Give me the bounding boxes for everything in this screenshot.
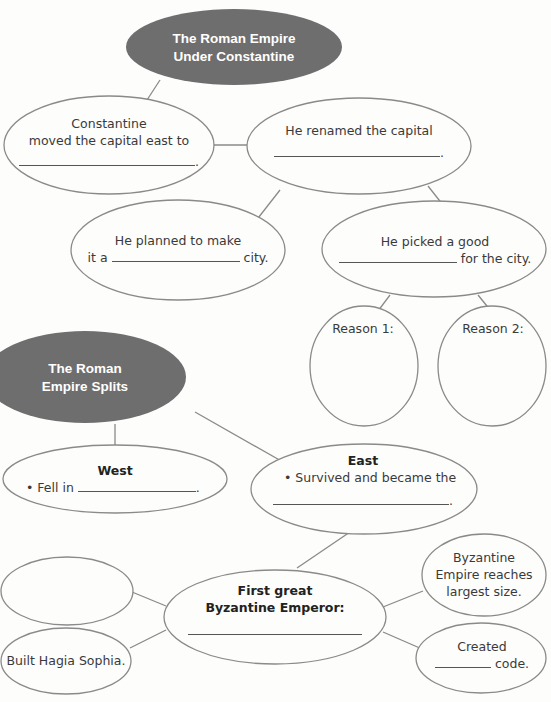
node-heading: West bbox=[20, 462, 210, 479]
node-capital-moved: Constantine moved the capital east to . bbox=[14, 115, 204, 170]
title-line: Under Constantine bbox=[134, 48, 334, 66]
title-line: The Roman bbox=[0, 360, 170, 378]
reason2-answer-area[interactable] bbox=[450, 342, 534, 412]
node-text: Created bbox=[424, 638, 540, 655]
answer-blank[interactable] bbox=[188, 622, 362, 635]
title-line: Empire Splits bbox=[0, 378, 170, 396]
bullet: • bbox=[284, 470, 291, 485]
period: . bbox=[195, 154, 199, 169]
connector bbox=[130, 630, 166, 648]
node-text: Survived and became the bbox=[295, 470, 456, 485]
node-text: for the city. bbox=[461, 251, 531, 266]
connector bbox=[132, 592, 166, 606]
node-heading: Byzantine Emperor: bbox=[175, 599, 375, 616]
node-hagia: Built Hagia Sophia. bbox=[2, 652, 130, 669]
node-east: East • Survived and became the . bbox=[268, 452, 458, 509]
node-planned: He planned to make it a city. bbox=[78, 232, 278, 266]
node-picked: He picked a good for the city. bbox=[330, 233, 540, 267]
title-splits: The Roman Empire Splits bbox=[0, 360, 170, 396]
node-text: He renamed the capital bbox=[264, 122, 454, 139]
title-constantine: The Roman Empire Under Constantine bbox=[134, 30, 334, 66]
reason2-label: Reason 2: bbox=[448, 320, 538, 337]
answer-blank[interactable] bbox=[339, 250, 457, 263]
reason1-label: Reason 1: bbox=[318, 320, 408, 337]
answer-blank[interactable] bbox=[112, 249, 240, 262]
node-text: code. bbox=[495, 656, 529, 671]
node-heading: First great bbox=[175, 582, 375, 599]
reason1-answer-area[interactable] bbox=[322, 342, 406, 412]
node-text: Fell in bbox=[37, 480, 74, 495]
node-text: moved the capital east to bbox=[14, 132, 204, 149]
node-heading: East bbox=[268, 452, 458, 469]
node-emperor: First great Byzantine Emperor: bbox=[175, 582, 375, 639]
period: . bbox=[440, 145, 444, 160]
node-text: it a bbox=[88, 250, 108, 265]
connector bbox=[383, 632, 422, 649]
node-text: He picked a good bbox=[330, 233, 540, 250]
connector bbox=[383, 591, 423, 607]
answer-blank[interactable] bbox=[273, 492, 449, 505]
answer-blank[interactable] bbox=[78, 479, 196, 492]
node-text: largest size. bbox=[424, 583, 544, 600]
node-west: West • Fell in . bbox=[20, 462, 210, 496]
answer-blank[interactable] bbox=[274, 144, 440, 157]
node-renamed: He renamed the capital . bbox=[264, 122, 454, 161]
node-largest: Byzantine Empire reaches largest size. bbox=[424, 549, 544, 600]
period: . bbox=[449, 493, 453, 508]
node-text: He planned to make bbox=[78, 232, 278, 249]
node-code: Created code. bbox=[424, 638, 540, 672]
bullet: • bbox=[26, 480, 33, 495]
answer-blank[interactable] bbox=[19, 153, 195, 166]
connector bbox=[147, 80, 160, 100]
title-line: The Roman Empire bbox=[134, 30, 334, 48]
node-text: Constantine bbox=[14, 115, 204, 132]
node-text: Byzantine bbox=[424, 549, 544, 566]
graphic-organizer: The Roman Empire Under Constantine Const… bbox=[0, 0, 551, 702]
node-text: Empire reaches bbox=[424, 566, 544, 583]
period: . bbox=[196, 480, 200, 495]
answer-blank[interactable] bbox=[435, 655, 491, 668]
node-text: city. bbox=[244, 250, 269, 265]
blank-node-answer-area[interactable] bbox=[10, 566, 124, 616]
connector bbox=[297, 532, 350, 568]
